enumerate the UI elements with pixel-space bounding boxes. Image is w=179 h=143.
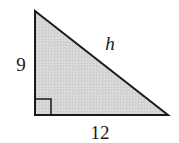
horizontal-leg-label: 12 bbox=[91, 122, 110, 143]
hypotenuse-label: h bbox=[105, 33, 115, 54]
right-triangle bbox=[35, 11, 168, 115]
vertical-leg-label: 9 bbox=[16, 54, 26, 75]
triangle-diagram: 9 h 12 bbox=[0, 0, 179, 143]
